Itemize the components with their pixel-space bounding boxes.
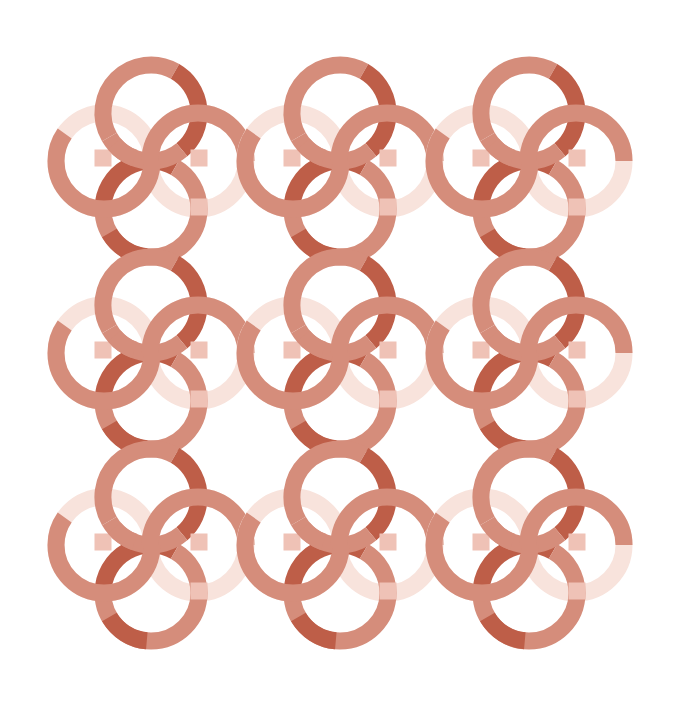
overlap-highlight	[473, 150, 490, 167]
overlap-highlight	[380, 583, 397, 600]
overlap-highlight	[569, 150, 586, 167]
interlocking-rings-artwork	[0, 0, 677, 704]
overlap-highlight	[380, 199, 397, 216]
overlap-highlight	[95, 534, 112, 551]
overlap-highlight	[284, 150, 301, 167]
top-ring	[492, 336, 512, 350]
overlap-highlight	[380, 534, 397, 551]
wave-band	[56, 518, 65, 546]
top-ring	[303, 528, 323, 542]
wave-band	[245, 134, 254, 162]
bottom-ring	[109, 617, 146, 641]
overlap-highlight	[569, 199, 586, 216]
ring-cluster	[245, 449, 435, 641]
wave-band	[245, 326, 254, 354]
ring-cluster	[434, 257, 624, 449]
overlap-highlight	[380, 342, 397, 359]
overlap-highlight	[569, 391, 586, 408]
bottom-ring	[298, 617, 335, 641]
overlap-highlight	[473, 342, 490, 359]
overlap-highlight	[473, 534, 490, 551]
ring-cluster	[245, 257, 435, 449]
bottom-ring	[487, 617, 524, 641]
ring-cluster	[245, 65, 435, 257]
ring-cluster	[434, 449, 624, 641]
top-ring	[114, 336, 134, 350]
overlap-highlight	[569, 583, 586, 600]
wave-band	[434, 518, 443, 546]
overlap-highlight	[191, 391, 208, 408]
top-ring	[492, 144, 512, 158]
wave-band	[245, 518, 254, 546]
ring-cluster	[434, 65, 624, 257]
overlap-highlight	[569, 534, 586, 551]
top-ring	[303, 336, 323, 350]
overlap-highlight	[191, 342, 208, 359]
overlap-highlight	[95, 150, 112, 167]
ring-cluster	[56, 257, 246, 449]
ring-cluster	[56, 65, 246, 257]
overlap-highlight	[284, 534, 301, 551]
overlap-highlight	[191, 534, 208, 551]
top-ring	[114, 144, 134, 158]
overlap-highlight	[191, 150, 208, 167]
top-ring	[492, 528, 512, 542]
overlap-highlight	[191, 199, 208, 216]
overlap-highlight	[569, 342, 586, 359]
wave-band	[56, 326, 65, 354]
overlap-highlight	[380, 391, 397, 408]
top-ring	[114, 528, 134, 542]
wave-band	[434, 134, 443, 162]
wave-band	[56, 134, 65, 162]
overlap-highlight	[284, 342, 301, 359]
wave-band	[434, 326, 443, 354]
overlap-highlight	[95, 342, 112, 359]
overlap-highlight	[380, 150, 397, 167]
top-ring	[303, 144, 323, 158]
ring-cluster	[56, 449, 246, 641]
overlap-highlight	[191, 583, 208, 600]
